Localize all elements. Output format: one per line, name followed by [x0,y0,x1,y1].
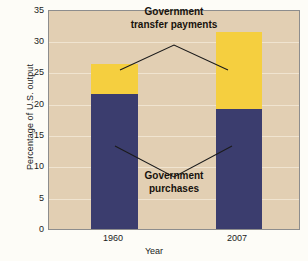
annotation-transfer-payments-line1: Government [94,6,254,19]
annotation-leader-lines [0,0,308,261]
annotation-purchases-line2: purchases [104,183,244,196]
annotation-purchases: Government purchases [104,170,244,195]
annotation-transfer-payments-line2: transfer payments [94,19,254,32]
annotation-transfer-payments: Government transfer payments [94,6,254,31]
annotation-purchases-line1: Government [104,170,244,183]
leader-line-transfers [120,45,228,70]
chart-figure: Percentage of U.S. output 35 30 25 20 15… [0,0,308,261]
